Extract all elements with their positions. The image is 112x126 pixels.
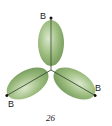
figure-caption: 26 [46,114,55,123]
atom-label-top: B [40,12,46,21]
atom-label-bottom-right: B [95,84,101,93]
trigonal-orbital-diagram [0,0,112,126]
orbital-lobe-top [38,17,64,71]
atom-label-bottom-left: B [8,100,14,109]
